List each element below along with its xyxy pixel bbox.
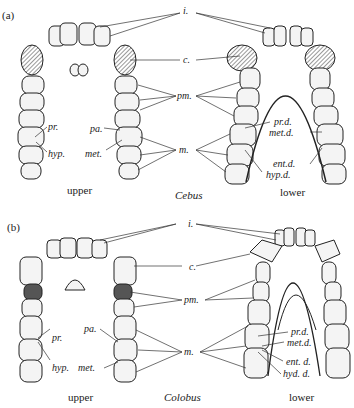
- paracone-label-a: pa.: [90, 124, 103, 134]
- genus-label-b: Colobus: [164, 392, 201, 403]
- genus-label-a: Cebus: [175, 190, 203, 201]
- protoconid-label-b: pr.d.: [291, 327, 309, 337]
- entoconid-label-a: ent.d.: [273, 159, 295, 169]
- metacone-label-b: met.: [78, 363, 95, 373]
- hypocone-label-a: hyp.: [48, 149, 65, 159]
- lower-caption-b: lower: [289, 392, 314, 403]
- molars-label-b: m.: [184, 347, 194, 357]
- metacone-label-a: met.: [85, 149, 102, 159]
- hypoconulid-label-b: hyd. d.: [283, 369, 310, 379]
- metaconid-label-b: met.d.: [287, 338, 311, 348]
- upper-caption-b: upper: [68, 392, 93, 403]
- panel-b-label: (b): [7, 222, 20, 233]
- canine-label-a: c.: [183, 55, 190, 65]
- molars-label-a: m.: [179, 145, 189, 155]
- incisors-label-a: i.: [183, 6, 188, 16]
- premolars-label-b: pm.: [184, 295, 199, 305]
- protoconid-label-a: pr.d.: [274, 117, 292, 127]
- entoconid-label-b: ent. d.: [286, 357, 311, 367]
- panel-a-label: (a): [2, 10, 14, 21]
- colobus-upper-arcade: [19, 238, 137, 382]
- lower-caption-a: lower: [280, 187, 305, 198]
- metaconid-label-a: met.d.: [269, 128, 293, 138]
- incisors-label-b: i.: [188, 219, 193, 229]
- premolars-label-a: pm.: [177, 91, 192, 101]
- hypocone-label-b: hyp.: [52, 363, 69, 373]
- cebus-upper-arcade: [18, 23, 142, 179]
- paracone-label-b: pa.: [84, 324, 97, 334]
- protocone-label-b: pr.: [52, 333, 62, 343]
- canine-label-b: c.: [189, 262, 196, 272]
- protocone-label-a: pr.: [48, 122, 58, 132]
- upper-caption-a: upper: [67, 185, 92, 196]
- hypoconid-label-a: hyp.d.: [266, 170, 290, 180]
